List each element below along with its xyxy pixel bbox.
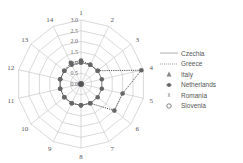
- data-marker: [58, 86, 63, 91]
- ring-label: 2.0: [71, 38, 79, 44]
- axis-label: 10: [21, 125, 29, 133]
- ring-label: 1.5: [71, 49, 79, 55]
- center-marker: [78, 81, 84, 87]
- data-marker: [88, 101, 93, 106]
- star-icon: [160, 82, 178, 88]
- axis-label: 1: [79, 9, 83, 17]
- circle-icon: [160, 103, 178, 109]
- legend-item-greece: Greece: [160, 59, 216, 70]
- data-marker: [69, 101, 74, 106]
- solid-line-icon: [160, 51, 178, 55]
- axis-label: 8: [79, 153, 83, 161]
- ring-label: 2.5: [71, 28, 79, 34]
- ring-label: 3.0: [71, 17, 79, 23]
- data-marker: [99, 77, 104, 82]
- axis-label: 13: [21, 36, 29, 44]
- axis-spoke: [81, 84, 109, 142]
- axis-label: 6: [136, 125, 140, 133]
- axis-label: 14: [46, 16, 54, 24]
- data-marker: [95, 68, 100, 73]
- data-marker: [99, 86, 104, 91]
- legend: Czechia Greece Italy Netherlands Romania…: [160, 48, 216, 111]
- legend-item-netherlands: Netherlands: [160, 80, 216, 91]
- axis-label: 2: [110, 16, 114, 24]
- x-marker-icon: [160, 92, 178, 98]
- data-marker: [58, 77, 63, 82]
- axis-label: 3: [136, 36, 140, 44]
- ring-label: 0.0: [71, 81, 79, 87]
- data-marker: [112, 108, 117, 113]
- triangle-icon: [160, 71, 178, 77]
- axis-label: 12: [7, 64, 15, 72]
- legend-item-slovenia: Slovenia: [160, 101, 216, 112]
- legend-item-czechia: Czechia: [160, 48, 216, 59]
- data-marker: [139, 68, 144, 73]
- axis-label: 5: [149, 97, 153, 105]
- data-marker: [62, 95, 67, 100]
- axis-spoke: [81, 26, 109, 84]
- legend-item-romania: Romania: [160, 90, 216, 101]
- axis-label: 7: [110, 145, 114, 153]
- radar-chart: 12345678910111213140.00.51.01.52.02.53.0: [0, 0, 160, 163]
- axis-label: 11: [7, 97, 14, 105]
- data-marker: [120, 91, 125, 96]
- axis-label: 4: [149, 64, 153, 72]
- data-marker: [95, 95, 100, 100]
- axis-spoke: [53, 84, 81, 142]
- data-marker: [69, 61, 74, 66]
- legend-item-italy: Italy: [160, 69, 216, 80]
- data-marker: [88, 62, 93, 67]
- data-marker: [79, 58, 84, 63]
- data-marker: [79, 103, 84, 108]
- data-marker: [62, 68, 67, 73]
- axis-label: 9: [48, 145, 52, 153]
- ring-label: 0.5: [71, 70, 79, 76]
- dotted-line-icon: [160, 62, 178, 66]
